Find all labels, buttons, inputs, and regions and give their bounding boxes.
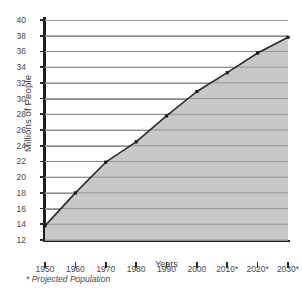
y-tick-label-16: 16 xyxy=(4,205,26,214)
plot-area: 121416182022242628303234363840 195019601… xyxy=(45,20,288,240)
data-point-1990 xyxy=(165,114,168,117)
data-point-2010-projected xyxy=(226,71,229,74)
data-point-1960 xyxy=(74,191,77,194)
y-tick-label-40: 40 xyxy=(4,16,26,25)
projected-population-footnote: * Projected Population xyxy=(26,274,110,284)
data-point-2000 xyxy=(195,90,198,93)
y-tick-label-38: 38 xyxy=(4,32,26,41)
x-axis-title: Years xyxy=(45,259,288,269)
y-tick-label-30: 30 xyxy=(4,95,26,104)
y-tick-label-28: 28 xyxy=(4,110,26,119)
data-point-1980 xyxy=(135,140,138,143)
y-tick-label-24: 24 xyxy=(4,142,26,151)
data-point-1950 xyxy=(43,224,46,227)
y-tick-label-18: 18 xyxy=(4,189,26,198)
y-tick-label-34: 34 xyxy=(4,63,26,72)
area-fill-shape xyxy=(45,37,288,240)
population-area-chart: Millions of People 121416182022242628303… xyxy=(0,0,302,288)
data-point-2020-projected xyxy=(256,51,259,54)
y-tick-label-36: 36 xyxy=(4,47,26,56)
data-point-2030-projected xyxy=(286,36,289,39)
data-series-layer xyxy=(45,20,288,240)
y-tick-label-12: 12 xyxy=(4,236,26,245)
y-tick-label-20: 20 xyxy=(4,173,26,182)
y-tick-label-32: 32 xyxy=(4,79,26,88)
data-point-1970 xyxy=(104,161,107,164)
y-tick-label-26: 26 xyxy=(4,126,26,135)
y-tick-label-14: 14 xyxy=(4,220,26,229)
y-tick-label-22: 22 xyxy=(4,157,26,166)
